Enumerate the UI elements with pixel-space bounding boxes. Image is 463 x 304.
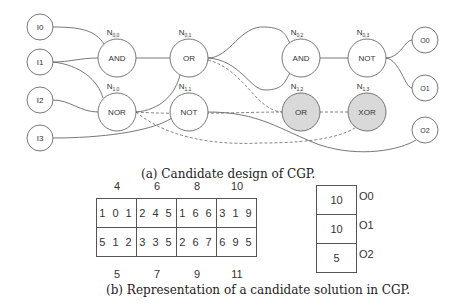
function-label: AND xyxy=(109,54,126,63)
genome-bottom-label: 5 xyxy=(97,268,137,280)
output-gene-label: O0 xyxy=(357,186,376,215)
function-label: NOT xyxy=(181,108,198,117)
genome-top-label: 4 xyxy=(97,180,137,192)
function-label: NOR xyxy=(108,108,126,117)
caption-a: (a) Candidate design of CGP. xyxy=(141,167,315,181)
genome-bottom-label: 11 xyxy=(217,268,257,280)
input-label: I2 xyxy=(37,96,44,105)
gene-cell: 3 3 5 xyxy=(137,228,177,257)
output-gene-value: 10 xyxy=(317,215,357,244)
function-label: XOR xyxy=(358,108,376,117)
node-id-label: N0,2 xyxy=(291,28,304,38)
output-gene-value: 5 xyxy=(317,244,357,273)
input-label: I3 xyxy=(37,134,44,143)
gene-cell: 1 6 6 xyxy=(177,199,217,228)
function-label: OR xyxy=(295,108,307,117)
output-gene-value: 10 xyxy=(317,186,357,215)
gene-cell: 2 4 5 xyxy=(137,199,177,228)
gene-cell: 6 9 5 xyxy=(217,228,257,257)
gene-cell: 1 0 1 xyxy=(97,199,137,228)
gene-cell: 3 1 9 xyxy=(217,199,257,228)
genome-row: 1 0 1 2 4 5 1 6 6 3 1 9 xyxy=(97,199,257,228)
output-label: O2 xyxy=(420,127,429,134)
cgp-graph: I0I1I2I3O0O1O2ANDN0,0ORN0,1ANDN0,2NOTN0,… xyxy=(0,0,463,165)
genome-top-label: 8 xyxy=(177,180,217,192)
function-label: NOT xyxy=(359,54,376,63)
genome-top-label: 6 xyxy=(137,180,177,192)
output-label: O0 xyxy=(420,37,429,44)
output-gene-label: O2 xyxy=(357,244,376,273)
output-label: O1 xyxy=(420,85,429,92)
input-label: I1 xyxy=(37,58,44,67)
node-id-label: N0,0 xyxy=(107,28,120,38)
node-id-label: N1,3 xyxy=(357,82,370,92)
genome-bottom-label: 9 xyxy=(177,268,217,280)
gene-cell: 2 6 7 xyxy=(177,228,217,257)
node-id-label: N1,2 xyxy=(291,82,304,92)
node-id-label: N1,0 xyxy=(107,82,120,92)
output-genes-table: 10O0 10O1 5O2 xyxy=(316,185,376,273)
input-label: I0 xyxy=(37,23,44,32)
genome-row: 5 1 2 3 3 5 2 6 7 6 9 5 xyxy=(97,228,257,257)
genome-bottom-label: 7 xyxy=(137,268,177,280)
node-id-label: N0,3 xyxy=(357,28,370,38)
caption-b: (b) Representation of a candidate soluti… xyxy=(106,283,410,297)
genome-top-label: 10 xyxy=(217,180,257,192)
node-id-label: N1,1 xyxy=(179,82,192,92)
genome-table: 1 0 1 2 4 5 1 6 6 3 1 9 5 1 2 3 3 5 2 6 … xyxy=(96,198,257,257)
function-label: AND xyxy=(293,54,310,63)
node-id-label: N0,1 xyxy=(179,28,192,38)
gene-cell: 5 1 2 xyxy=(97,228,137,257)
output-gene-label: O1 xyxy=(357,215,376,244)
function-label: OR xyxy=(183,54,195,63)
